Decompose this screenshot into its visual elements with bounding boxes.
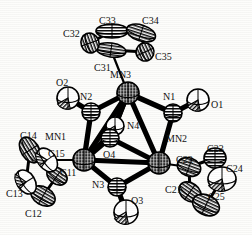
atom-label-C25: C25 bbox=[208, 192, 225, 202]
atom-label-C22: C22 bbox=[176, 155, 193, 165]
atom-label-C21: C21 bbox=[165, 185, 182, 195]
atom-label-C14: C14 bbox=[20, 131, 37, 141]
atom-O2 bbox=[57, 87, 79, 109]
atom-label-C34: C34 bbox=[142, 16, 159, 26]
atom-label-C31: C31 bbox=[94, 63, 111, 73]
atom-label-O2: O2 bbox=[56, 78, 68, 88]
atom-label-O1: O1 bbox=[211, 100, 223, 110]
atom-label-N1: N1 bbox=[163, 92, 175, 102]
atom-label-C23: C23 bbox=[207, 144, 224, 154]
atom-label-C12: C12 bbox=[25, 209, 42, 219]
atom-label-C35: C35 bbox=[155, 52, 172, 62]
atom-O1 bbox=[187, 89, 209, 111]
atom-label-O4: O4 bbox=[103, 150, 115, 160]
atom-label-C33: C33 bbox=[99, 16, 116, 26]
atom-label-MN3: MN3 bbox=[110, 70, 131, 80]
atom-label-C32: C32 bbox=[63, 29, 80, 39]
ortep-structure-figure: MN1MN2MN3N1N2N3N4O1O2O3O4C11C12C13C14C15… bbox=[0, 0, 252, 235]
atom-label-C24: C24 bbox=[226, 164, 243, 174]
atom-C33 bbox=[96, 24, 128, 38]
atom-MN2 bbox=[148, 152, 170, 174]
atom-N1 bbox=[164, 104, 182, 122]
atom-layer bbox=[11, 21, 236, 225]
atom-label-C13: C13 bbox=[6, 189, 23, 199]
atom-label-N2: N2 bbox=[80, 92, 92, 102]
atom-N3 bbox=[108, 178, 126, 196]
atom-label-MN1: MN1 bbox=[45, 132, 66, 142]
atom-label-C11: C11 bbox=[60, 168, 76, 178]
atom-label-N4: N4 bbox=[127, 121, 139, 131]
atom-label-N3: N3 bbox=[92, 180, 104, 190]
atom-label-O3: O3 bbox=[131, 196, 143, 206]
atom-label-MN2: MN2 bbox=[166, 134, 187, 144]
atom-MN3 bbox=[117, 82, 139, 104]
atom-C35 bbox=[133, 40, 157, 64]
atom-O4 bbox=[101, 129, 119, 147]
atom-N2 bbox=[82, 103, 100, 121]
atom-label-C15: C15 bbox=[48, 149, 65, 159]
